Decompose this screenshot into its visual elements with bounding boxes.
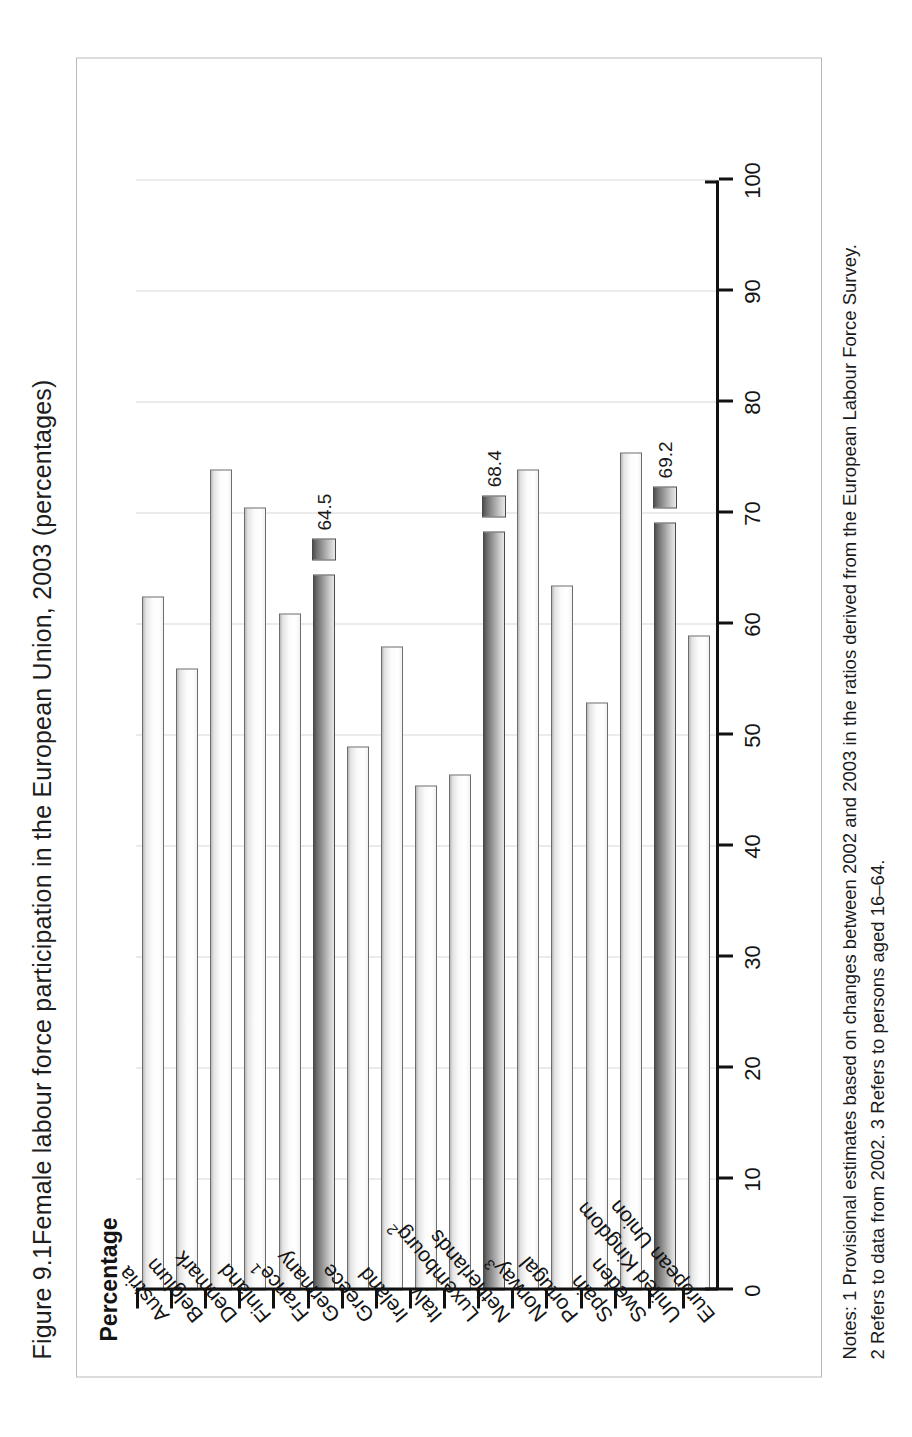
axis-tick-label: 20 <box>740 1038 766 1098</box>
axis-tick-label: 80 <box>740 372 766 432</box>
axis-tick-label: 10 <box>740 1149 766 1209</box>
figure-heading: Figure 9.1Female labour force participat… <box>28 379 57 1359</box>
bar-row <box>688 180 710 1290</box>
bar-greece <box>347 746 369 1290</box>
bar-united-kingdom <box>654 522 676 1290</box>
bar-row <box>142 180 164 1290</box>
bar-row <box>381 180 403 1290</box>
axis-tick-label: 60 <box>740 594 766 654</box>
bar-norway- <box>517 469 539 1290</box>
axis-tick <box>719 732 733 735</box>
axis-tick-label: 0 <box>740 1260 766 1320</box>
bar-sweden <box>620 452 642 1290</box>
bar-row: 64.5 <box>313 180 335 1290</box>
figure-number: Figure 9.1 <box>28 1244 57 1359</box>
bar-row <box>210 180 232 1290</box>
axis-tick <box>719 621 733 624</box>
bar-row <box>586 180 608 1290</box>
bar-row <box>279 180 301 1290</box>
bar-series: 64.568.469.2 <box>136 180 716 1290</box>
note-line-1: Notes: 1 Provisional estimates based on … <box>839 244 860 1359</box>
bar-row <box>620 180 642 1290</box>
bar-italy <box>415 785 437 1290</box>
axis-tick <box>719 177 733 180</box>
bar-belgium <box>176 668 198 1290</box>
bar-denmark <box>210 469 232 1290</box>
bar-portugal <box>551 585 573 1290</box>
figure-sheet: Figure 9.1Female labour force participat… <box>0 0 912 1437</box>
bar-row <box>415 180 437 1290</box>
value-marker <box>653 486 677 508</box>
bar-european-union <box>688 635 710 1290</box>
bar-austria <box>142 596 164 1290</box>
value-label: 69.2 <box>655 441 677 478</box>
bar-row <box>517 180 539 1290</box>
figure-notes: Notes: 1 Provisional estimates based on … <box>836 244 892 1359</box>
axis-tick <box>719 1176 733 1179</box>
bar-row <box>449 180 471 1290</box>
axis-tick-label: 40 <box>740 816 766 876</box>
axis-tick <box>719 1287 733 1290</box>
figure-page: Figure 9.1Female labour force participat… <box>0 0 912 1437</box>
bar-netherlands <box>483 531 505 1290</box>
axis-tick <box>719 399 733 402</box>
axis-tick <box>719 510 733 513</box>
page-title: Female labour force participation in the… <box>28 379 57 1245</box>
bar-ireland <box>381 646 403 1290</box>
axis-cap-end <box>705 180 718 183</box>
bar-row <box>176 180 198 1290</box>
axis-tick <box>719 288 733 291</box>
axis-tick <box>719 954 733 957</box>
value-label: 68.4 <box>484 450 506 487</box>
axis-tick-label: 30 <box>740 927 766 987</box>
value-marker <box>482 495 506 517</box>
bar-luxembourg- <box>449 774 471 1290</box>
value-label: 64.5 <box>314 493 336 530</box>
plot-area: 64.568.469.2 <box>136 180 716 1290</box>
bar-row: 68.4 <box>483 180 505 1290</box>
axis-cap-start <box>705 1287 718 1290</box>
bar-germany <box>313 574 335 1290</box>
bar-finland <box>244 507 266 1290</box>
axis-tick-label: 50 <box>740 705 766 765</box>
bar-row <box>551 180 573 1290</box>
axis-tick-label: 100 <box>740 150 766 210</box>
bar-row <box>347 180 369 1290</box>
bar-row <box>244 180 266 1290</box>
axis-tick-label: 90 <box>740 261 766 321</box>
bar-row: 69.2 <box>654 180 676 1290</box>
axis-tick <box>719 843 733 846</box>
axis-tick-label: 70 <box>740 483 766 543</box>
bar-france- <box>279 613 301 1290</box>
note-line-2: 2 Refers to data from 2002. 3 Refers to … <box>864 244 892 1359</box>
value-marker <box>312 538 336 560</box>
axis-tick <box>719 1065 733 1068</box>
